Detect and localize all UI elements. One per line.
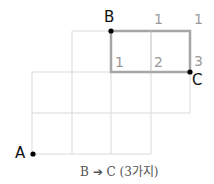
count-label-mid-3: 3 <box>194 54 203 68</box>
count-label-mid-1: 1 <box>115 55 124 69</box>
point-a-dot <box>30 151 35 156</box>
point-c-label: C <box>192 73 202 88</box>
grid-diagram <box>0 0 214 184</box>
point-a-label: A <box>15 146 25 161</box>
count-label-top-2: 1 <box>194 12 203 26</box>
point-b-dot <box>108 28 113 33</box>
count-label-mid-2: 2 <box>154 55 163 69</box>
caption: B ➔ C (3가지) <box>80 166 158 178</box>
point-b-label: B <box>104 10 114 25</box>
count-label-top-1: 1 <box>154 12 163 26</box>
